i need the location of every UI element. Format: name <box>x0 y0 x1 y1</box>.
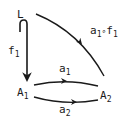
node-A1: A1 <box>17 87 28 98</box>
label-a1-compose-f1: a1∘f1 <box>90 25 118 36</box>
node-L: L <box>17 9 24 20</box>
arrow-a1 <box>34 81 98 86</box>
commutative-diagram: L A1 A2 f1 a1 a2 a1∘f1 <box>0 0 130 129</box>
label-f1: f1 <box>8 45 19 56</box>
arrow-a2 <box>34 97 98 102</box>
label-a2: a2 <box>59 104 70 115</box>
label-a1: a1 <box>59 63 70 74</box>
arrow-f1 <box>20 20 27 80</box>
node-A2: A2 <box>100 90 111 101</box>
